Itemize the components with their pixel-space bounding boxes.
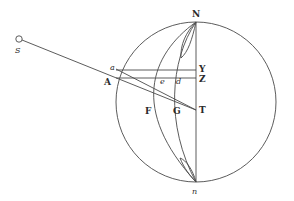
label-n: n [192,187,197,196]
line-S-T [22,40,196,110]
label-d: d [176,77,181,86]
arc-N-d-G-n [175,22,196,182]
label-e: e [160,77,165,86]
sun-marker-icon [16,36,22,42]
label-Y: Y [198,64,206,74]
label-F: F [145,106,152,116]
label-Z: Z [199,74,206,84]
label-N: N [192,9,200,19]
label-G: G [173,106,181,116]
orbital-geometry-diagram: S N n Y Z T a A e d F G [0,0,294,201]
label-A: A [103,77,112,87]
label-a: a [110,63,115,72]
label-T: T [199,105,206,115]
label-S: S [15,46,21,55]
